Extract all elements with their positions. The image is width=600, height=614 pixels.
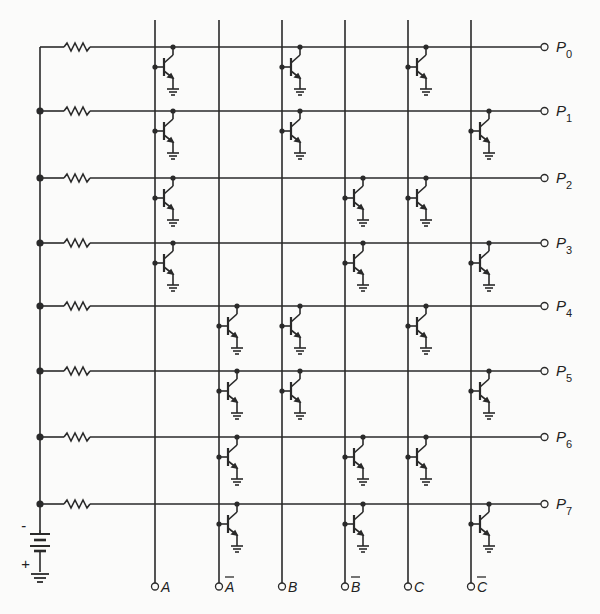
output-terminal-P6[interactable] bbox=[541, 434, 548, 441]
output-terminal-P4[interactable] bbox=[541, 303, 548, 310]
resistor-icon bbox=[64, 367, 90, 375]
battery-minus-label: - bbox=[21, 517, 26, 534]
resistor-icon bbox=[64, 43, 90, 51]
output-terminal-P7[interactable] bbox=[541, 501, 548, 508]
input-terminal-C[interactable] bbox=[405, 583, 412, 590]
npn-transistor-icon bbox=[468, 240, 495, 291]
input-label-C: C bbox=[414, 579, 425, 595]
npn-transistor-icon bbox=[342, 240, 369, 291]
npn-transistor-icon bbox=[216, 434, 243, 485]
npn-transistor-icon bbox=[405, 175, 432, 226]
npn-transistor-icon bbox=[216, 303, 243, 354]
output-terminal-P5[interactable] bbox=[541, 368, 548, 375]
npn-transistor-icon bbox=[279, 368, 306, 419]
output-label-P1: P1 bbox=[556, 102, 572, 124]
junction-dot bbox=[37, 108, 43, 114]
output-terminal-P0[interactable] bbox=[541, 44, 548, 51]
input-terminal-A[interactable] bbox=[152, 583, 159, 590]
output-label-P2: P2 bbox=[556, 169, 572, 191]
npn-transistor-icon bbox=[216, 368, 243, 419]
resistor-icon bbox=[64, 239, 90, 247]
output-terminal-P3[interactable] bbox=[541, 240, 548, 247]
npn-transistor-icon bbox=[405, 434, 432, 485]
junction-dot bbox=[37, 368, 43, 374]
resistors bbox=[64, 43, 90, 508]
junction-dot bbox=[37, 303, 43, 309]
output-label-P7: P7 bbox=[556, 495, 572, 517]
npn-transistor-icon bbox=[279, 44, 306, 95]
npn-transistor-icon bbox=[152, 44, 179, 95]
npn-transistor-icon bbox=[468, 501, 495, 552]
npn-transistor-icon bbox=[342, 501, 369, 552]
input-terminal-A_bar[interactable] bbox=[216, 583, 223, 590]
npn-transistor-icon bbox=[279, 303, 306, 354]
battery-plus-label: + bbox=[21, 555, 30, 572]
npn-transistor-icon bbox=[342, 175, 369, 226]
resistor-icon bbox=[64, 302, 90, 310]
wires bbox=[37, 20, 541, 583]
output-label-P5: P5 bbox=[556, 362, 572, 384]
input-label-B_bar: B bbox=[351, 579, 360, 595]
decoder-circuit-diagram: AABBCCP0P1P2P3P4P5P6P7-+ bbox=[0, 0, 600, 614]
input-label-A_bar: A bbox=[224, 579, 234, 595]
npn-transistor-icon bbox=[216, 501, 243, 552]
input-label-B: B bbox=[288, 579, 297, 595]
npn-transistor-icon bbox=[152, 108, 179, 159]
transistors bbox=[152, 44, 495, 552]
input-label-A: A bbox=[160, 579, 170, 595]
input-terminal-B[interactable] bbox=[279, 583, 286, 590]
npn-transistor-icon bbox=[468, 368, 495, 419]
junction-dot bbox=[37, 175, 43, 181]
input-terminal-C_bar[interactable] bbox=[468, 583, 475, 590]
npn-transistor-icon bbox=[152, 240, 179, 291]
output-label-P0: P0 bbox=[556, 38, 572, 60]
npn-transistor-icon bbox=[152, 175, 179, 226]
junction-dot bbox=[37, 434, 43, 440]
resistor-icon bbox=[64, 107, 90, 115]
output-label-P4: P4 bbox=[556, 297, 572, 319]
npn-transistor-icon bbox=[468, 108, 495, 159]
npn-transistor-icon bbox=[342, 434, 369, 485]
resistor-icon bbox=[64, 500, 90, 508]
input-terminal-B_bar[interactable] bbox=[342, 583, 349, 590]
resistor-icon bbox=[64, 433, 90, 441]
junction-dot bbox=[37, 501, 43, 507]
output-terminal-P1[interactable] bbox=[541, 108, 548, 115]
npn-transistor-icon bbox=[405, 44, 432, 95]
resistor-icon bbox=[64, 174, 90, 182]
output-label-P3: P3 bbox=[556, 234, 572, 256]
npn-transistor-icon bbox=[279, 108, 306, 159]
npn-transistor-icon bbox=[405, 303, 432, 354]
output-terminal-P2[interactable] bbox=[541, 175, 548, 182]
input-label-C_bar: C bbox=[477, 579, 488, 595]
output-label-P6: P6 bbox=[556, 428, 572, 450]
junction-dot bbox=[37, 240, 43, 246]
